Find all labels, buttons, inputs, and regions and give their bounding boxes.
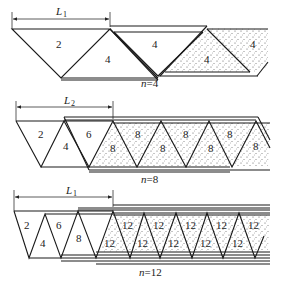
triangle-label: 8	[160, 142, 166, 154]
triangle-label: 12	[185, 219, 196, 231]
triangle-label: 2	[24, 219, 30, 231]
triangle-label: 12	[104, 237, 115, 249]
triangle-label: 6	[56, 219, 62, 231]
triangle-label: 8	[208, 142, 214, 154]
triangle-label: 4	[204, 53, 210, 65]
triangle-label: 12	[216, 219, 227, 231]
triangle-label: 2	[38, 128, 44, 140]
caption-n8: n=8	[141, 173, 159, 185]
panel-n8: L 2 2 4 6 8 8 8 8 8 8 8 n=8	[16, 94, 270, 185]
dimension-label: L	[55, 5, 62, 17]
triangle-label: 4	[152, 38, 158, 50]
triangle-label: 12	[168, 237, 179, 249]
dimension-subscript: 2	[71, 99, 75, 108]
dimension-l1-top: L 1	[12, 5, 110, 29]
caption-n12: n=12	[139, 266, 162, 278]
stipple-region	[165, 28, 268, 72]
triangle-label: 12	[153, 219, 164, 231]
triangle-label: 12	[232, 237, 243, 249]
triangle-label: 8	[76, 232, 82, 244]
triangle-label: 12	[122, 219, 133, 231]
triangle-label: 4	[105, 53, 111, 65]
dimension-subscript: 1	[63, 10, 67, 19]
triangle-label: 8	[227, 128, 233, 140]
triangle-label: 12	[248, 219, 259, 231]
caption-n4: n=4	[141, 77, 159, 89]
dimension-l1-bottom: L 1	[14, 184, 113, 211]
triangle	[12, 29, 110, 78]
triangle-label: 8	[253, 140, 259, 152]
triangle-label: 8	[135, 128, 141, 140]
dimension-label: L	[63, 94, 70, 106]
dimension-subscript: 1	[73, 189, 77, 198]
triangle-label: 4	[63, 140, 69, 152]
triangle-label: 8	[183, 128, 189, 140]
triangle-label: 12	[200, 237, 211, 249]
panel-n12: L 1 2 4 6 8 12 12 12 12 12 12 12 12 12 1…	[14, 184, 270, 278]
triangle-label: 4	[250, 38, 256, 50]
dimension-label: L	[65, 184, 72, 196]
triangle-label: 8	[110, 142, 116, 154]
triangle-label: 12	[137, 237, 148, 249]
triangle-label: 2	[56, 38, 62, 50]
panel-n4: L 1 2 4 4 4 4 n=4	[12, 5, 268, 89]
triangle-label: 4	[40, 237, 46, 249]
triangle-label: 6	[86, 128, 92, 140]
diagram-canvas: L 1 2 4 4 4 4 n=4 L	[0, 0, 282, 288]
